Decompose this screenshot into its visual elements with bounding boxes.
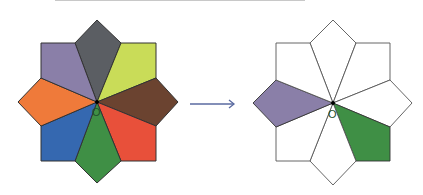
center-point — [95, 100, 99, 104]
rotation-diagram: O O — [0, 0, 423, 195]
outline-star-figure: O — [253, 20, 412, 185]
colored-star-figure: O — [18, 20, 178, 183]
center-label-o-right: O — [328, 108, 337, 120]
arrow — [190, 100, 234, 108]
center-label-o: O — [92, 106, 101, 118]
center-point-right — [331, 101, 335, 105]
